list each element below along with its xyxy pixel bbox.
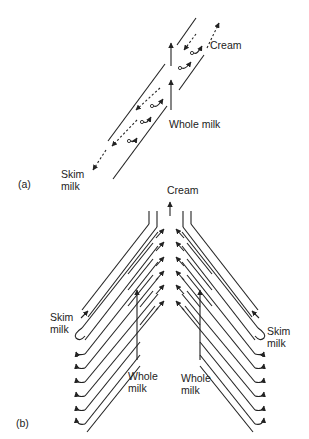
label-skim-left-line2: milk	[50, 323, 69, 335]
label-skim-left-line1: Skim	[50, 311, 73, 323]
panel-tag-b: (b)	[16, 417, 29, 429]
skim-flow-arrow-icon	[184, 34, 196, 50]
panel-tag-a: (a)	[18, 178, 31, 190]
label-cream-a: Cream	[210, 39, 242, 51]
label-skim-right-line1: Skim	[267, 325, 290, 337]
skim-flow-arrow-icon	[112, 120, 137, 146]
label-whole-left-line1: Whole	[128, 370, 158, 382]
left-cream-arrows	[156, 229, 164, 310]
disc-wall-line	[108, 64, 165, 141]
right-disc-stack	[182, 224, 258, 432]
label-whole-left-line2: milk	[128, 382, 147, 394]
panel-b-diagram	[75, 202, 265, 432]
label-cream-b: Cream	[167, 184, 199, 196]
label-whole-right-line2: milk	[181, 384, 200, 396]
label-skim-right-line2: milk	[267, 337, 286, 349]
right-skim-arrows	[252, 311, 265, 424]
label-whole-milk-a: Whole milk	[169, 118, 220, 130]
label-whole-right-line1: Whole	[181, 372, 211, 384]
label-skim-milk-a-line1: Skim	[61, 168, 84, 180]
skim-outlet-arrow-icon	[93, 150, 106, 170]
disc-wall-line	[179, 55, 204, 90]
left-skim-arrows	[75, 311, 88, 424]
panel-a-diagram	[93, 18, 219, 179]
disc-wall-line	[177, 18, 196, 45]
left-disc-stack	[82, 224, 158, 432]
label-skim-milk-a-line2: milk	[61, 180, 80, 192]
right-cream-arrows	[176, 229, 184, 310]
disc-wall-line	[113, 106, 167, 179]
